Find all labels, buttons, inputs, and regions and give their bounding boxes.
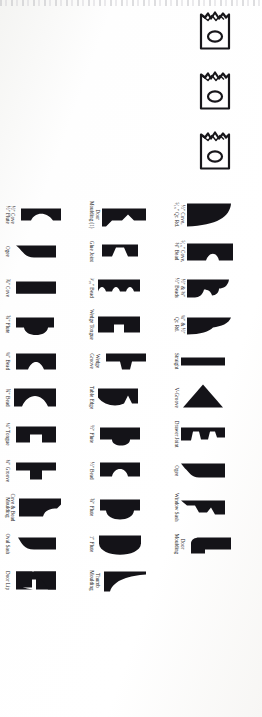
- profile-cell-cove-bead: ⁵⁄₁₆" Cove, ⅜" Bead: [173, 233, 257, 270]
- profile-label: Door Lip: [4, 571, 10, 590]
- bead-3-16-profile-icon: [96, 269, 152, 306]
- profile-cell-spacer: [4, 598, 88, 635]
- tongue-quarter-profile-icon: [12, 415, 68, 452]
- profile-label: Straight: [173, 352, 179, 368]
- profile-cell-cove-bead-moulding: Cove & Bead Moulding: [4, 489, 88, 526]
- profile-cell-door-moulding-1: Door Moulding (1): [89, 196, 173, 233]
- profile-label: ½" & ⅜" ½" Beads: [173, 278, 184, 298]
- profile-cell-glue-joint: Glue Joint: [89, 233, 173, 270]
- rotated-page-content: ½" Cove, ⁵⁄₁₆" Qr. Rd. ⁵⁄₁₆" Cove, ⅜" Be…: [0, 0, 262, 717]
- profile-cell-cove-quarter-round: ½" Cove, ⁵⁄₁₆" Qr. Rd.: [173, 196, 257, 233]
- profile-label: Ogee: [4, 245, 10, 256]
- profile-label: ¼" Bead: [4, 352, 10, 370]
- flute-three-quarter-profile-icon: [96, 489, 152, 526]
- profile-label: Wedge Groove: [89, 353, 100, 368]
- thumb-moulding-profile-icon: [102, 562, 158, 599]
- ogee-profile-icon: [181, 452, 237, 489]
- profile-cell-bead-half: ½" Bead: [89, 452, 173, 489]
- profile-cell-ogee: Ogee: [173, 452, 257, 489]
- profile-row: ½" Cove ½" Flute Ogee ¾" Cove ¾" Flute: [4, 196, 89, 708]
- profile-cell-spacer: [4, 671, 88, 708]
- profile-label: 1" Flute: [89, 535, 95, 552]
- profile-cell-flute-one-inch: 1" Flute: [89, 525, 173, 562]
- profile-cell-spacer: [89, 598, 173, 635]
- profile-label: ¾" Flute: [89, 498, 95, 516]
- wedge-tongue-profile-icon: [96, 306, 152, 343]
- profile-cell-cove-three-quarter: ¾" Cove: [4, 269, 88, 306]
- knife-blank: [192, 68, 238, 114]
- profile-cell-drawer-joint: Drawer Joint: [173, 415, 257, 452]
- v-groove-profile-icon: [181, 379, 237, 416]
- profile-cell-flute-half: ½" Flute: [89, 415, 173, 452]
- profile-label: ³⁄₁₆" Bead: [89, 277, 95, 297]
- profile-cell-table-edge: Table Edge: [89, 379, 173, 416]
- profile-cell-ogee-2: Ogee: [4, 233, 88, 270]
- cove-bead-profile-icon: [187, 233, 243, 270]
- moulding-profile-grid: ½" Cove, ⁵⁄₁₆" Qr. Rd. ⁵⁄₁₆" Cove, ⅜" Be…: [4, 196, 258, 708]
- profile-label: Cove & Bead Moulding: [4, 493, 15, 521]
- profile-row: ½" Cove, ⁵⁄₁₆" Qr. Rd. ⁵⁄₁₆" Cove, ⅜" Be…: [173, 196, 258, 708]
- cove-three-quarter-profile-icon: [12, 269, 68, 306]
- door-moulding-profile-icon: [187, 525, 243, 562]
- profile-cell-oval-sash: Oval Sash: [4, 525, 88, 562]
- profile-cell-spacer: [173, 671, 257, 708]
- profile-label: ½" Cove, ⁵⁄₁₆" Qr. Rd.: [173, 202, 184, 227]
- profile-label: ⁵⁄₁₆" Cove, ⅜" Bead: [173, 240, 184, 262]
- profile-row: Door Moulding (1) Glue Joint ³⁄₁₆" Bead …: [89, 196, 174, 708]
- double-bead-profile-icon: [187, 269, 243, 306]
- profile-cell-flute-three-quarter-2: ¾" Flute: [4, 306, 88, 343]
- profile-label: Door Moulding: [173, 533, 184, 553]
- profile-cell-spacer: [89, 671, 173, 708]
- profile-cell-window-sash: Window Sash: [173, 489, 257, 526]
- profile-label: ¾" Flute: [4, 315, 10, 333]
- profile-cell-door-moulding: Door Moulding: [173, 525, 257, 562]
- oval-sash-profile-icon: [12, 525, 68, 562]
- profile-label: Glue Joint: [89, 240, 95, 261]
- profile-label: Window Sash: [173, 493, 179, 521]
- profile-cell-flute-three-quarter: ¾" Flute: [89, 489, 173, 526]
- ogee-2-profile-icon: [12, 233, 68, 270]
- profile-label: ¾" Cove: [4, 278, 10, 296]
- profile-label: Drawer Joint: [173, 420, 179, 447]
- groove-quarter-profile-icon: [12, 452, 68, 489]
- profile-label: Door Moulding (1): [89, 201, 100, 229]
- flute-one-inch-profile-icon: [96, 525, 152, 562]
- bead-half-profile-icon: [96, 452, 152, 489]
- profile-label: Table Edge: [89, 386, 95, 409]
- door-moulding-1-profile-icon: [102, 196, 158, 233]
- profile-label: Wedge Tongue: [89, 309, 95, 340]
- window-sash-profile-icon: [181, 489, 237, 526]
- profile-cell-spacer: [173, 562, 257, 599]
- profile-label: Oval Sash: [4, 533, 10, 554]
- profile-cell-spacer: [89, 635, 173, 672]
- profile-label: Ogee: [173, 465, 179, 476]
- profile-cell-spacer: [173, 635, 257, 672]
- flute-half-profile-icon: [96, 415, 152, 452]
- flute-three-quarter-2-profile-icon: [12, 306, 68, 343]
- bead-quarter-profile-icon: [12, 342, 68, 379]
- profile-label: ¾" Bead: [4, 388, 10, 406]
- bead-three-quarter-profile-icon: [12, 379, 68, 416]
- profile-label: ½" Flute: [89, 425, 95, 443]
- profile-label: ¼" Tongue: [4, 422, 10, 444]
- profile-label: Thumb Moulding: [89, 570, 100, 590]
- profile-cell-groove-quarter: ¼" Groove: [4, 452, 88, 489]
- knife-blank: [192, 128, 238, 174]
- profile-cell-double-bead: ½" & ⅜" ½" Beads: [173, 269, 257, 306]
- profile-cell-straight: Straight: [173, 342, 257, 379]
- profile-cell-bead-3-16: ³⁄₁₆" Bead: [89, 269, 173, 306]
- table-edge-profile-icon: [96, 379, 152, 416]
- knife-blank-group: [182, 8, 248, 178]
- profile-cell-spacer: [4, 635, 88, 672]
- profile-label: V-Groove: [173, 387, 179, 407]
- quarter-round-pair-profile-icon: [187, 306, 243, 343]
- drawer-joint-profile-icon: [181, 415, 237, 452]
- straight-profile-icon: [181, 342, 237, 379]
- profile-label: ½" Cove ½" Flute: [4, 205, 15, 223]
- wedge-groove-profile-icon: [102, 342, 158, 379]
- profile-cell-tongue-quarter: ¼" Tongue: [4, 415, 88, 452]
- profile-cell-bead-three-quarter: ¾" Bead: [4, 379, 88, 416]
- profile-cell-thumb-moulding: Thumb Moulding: [89, 562, 173, 599]
- glue-joint-profile-icon: [96, 233, 152, 270]
- profile-cell-wedge-tongue: Wedge Tongue: [89, 306, 173, 343]
